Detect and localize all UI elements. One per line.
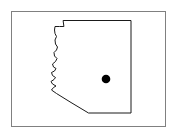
arizona-state-outline — [51, 21, 131, 114]
arizona-map-canvas — [0, 0, 177, 138]
map-figure: Arizona state outline map with single po… — [0, 0, 177, 138]
point-marker — [102, 75, 111, 84]
